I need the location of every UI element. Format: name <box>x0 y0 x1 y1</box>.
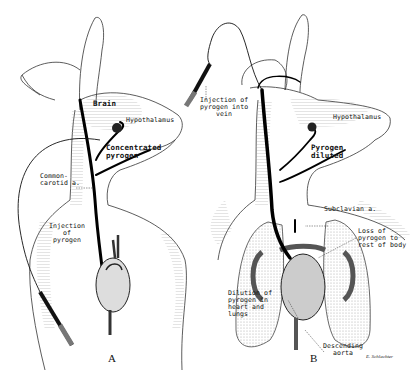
label-injection-into-vein: Injection of pyrogen into vein <box>200 97 248 118</box>
label-dilution-of-pyrogen: Dilution of pyrogen in heart and lungs <box>228 290 272 318</box>
label-descending-aorta: Descending aorta <box>323 343 363 357</box>
label-hypothalamus-a: Hypothalamus <box>126 117 174 124</box>
label-hypothalamus-b: Hypothalamus <box>333 114 381 121</box>
label-pyrogen-diluted: Pyrogen diluted <box>311 144 343 160</box>
label-subclavian: Subclavian a. <box>324 206 376 213</box>
panel-label-b: B <box>310 352 317 364</box>
pyrogen-injection-diagram: Brain Hypothalamus Concentrated pyrogen … <box>0 0 419 375</box>
label-common-carotid: Common- carotid a. <box>40 173 80 187</box>
label-injection-of-pyrogen: Injection of pyrogen <box>49 223 85 244</box>
hypothalamus-b <box>308 123 317 132</box>
artist-signature: E. Schlachter <box>366 354 393 359</box>
illustration <box>0 0 419 375</box>
syringe-b <box>186 23 262 106</box>
panel-label-a: A <box>108 352 116 364</box>
label-brain: Brain <box>93 100 116 108</box>
label-concentrated-pyrogen: Concentrated pyrogen <box>106 144 161 160</box>
hypothalamus-a <box>112 123 122 133</box>
label-loss-of-pyrogen: Loss of pyrogen to rest of body <box>358 228 406 249</box>
